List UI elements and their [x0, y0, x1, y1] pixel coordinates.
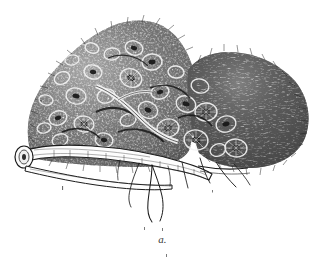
illustration-plate: a.	[0, 0, 325, 271]
engraving-figure	[0, 0, 325, 271]
cut-stem-end	[15, 146, 33, 168]
figure-label: a.	[0, 234, 325, 245]
